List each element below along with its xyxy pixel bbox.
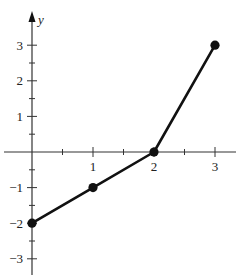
y-axis-label: y bbox=[36, 12, 44, 27]
y-tick-label: −3 bbox=[9, 251, 23, 266]
y-tick-label: 2 bbox=[17, 73, 24, 88]
y-tick-label: −1 bbox=[9, 180, 23, 195]
data-point bbox=[210, 41, 219, 50]
x-tick-label: 1 bbox=[90, 159, 97, 174]
y-tick-label: −2 bbox=[9, 216, 23, 231]
data-point bbox=[149, 147, 158, 156]
axes bbox=[4, 11, 236, 275]
data-point bbox=[88, 183, 97, 192]
x-tick-label: 2 bbox=[151, 159, 158, 174]
y-tick-label: 3 bbox=[17, 38, 24, 53]
data-series bbox=[27, 41, 219, 228]
series-line bbox=[32, 45, 215, 223]
piecewise-linear-chart: 123321−1−2−3 y bbox=[0, 0, 239, 275]
y-axis-arrow-icon bbox=[29, 11, 36, 22]
data-point bbox=[27, 219, 36, 228]
y-tick-label: 1 bbox=[17, 109, 24, 124]
x-tick-label: 3 bbox=[212, 159, 219, 174]
